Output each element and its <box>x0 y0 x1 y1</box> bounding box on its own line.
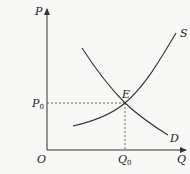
demand-label: D <box>169 132 179 145</box>
p0-label: P0 <box>31 97 44 111</box>
supply-label: S <box>180 27 188 40</box>
equilibrium-label: E <box>121 88 130 101</box>
origin-label: O <box>37 153 46 166</box>
y-axis-label: P <box>34 5 43 18</box>
q0-label: Q0 <box>118 153 132 167</box>
supply-demand-chart: P Q O S D E P0 Q0 <box>0 0 190 174</box>
x-axis-label: Q <box>177 153 186 166</box>
supply-curve <box>73 33 176 126</box>
